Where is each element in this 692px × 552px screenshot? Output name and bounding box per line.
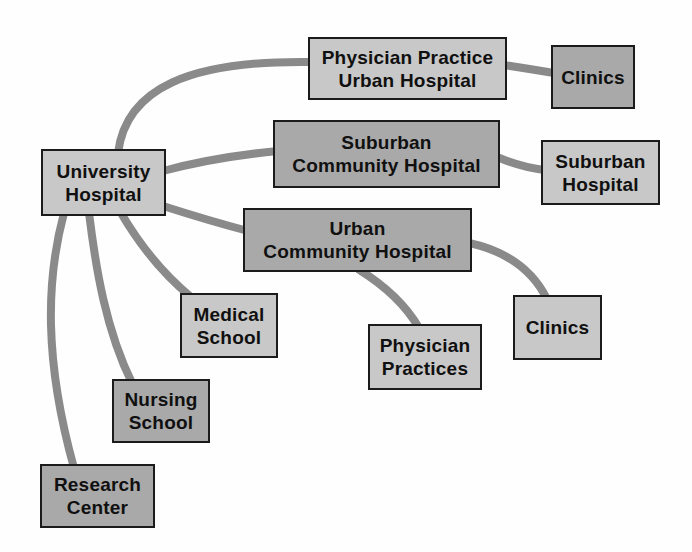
edge-uh-ms [121, 213, 191, 297]
node-label: Clinics [561, 66, 625, 89]
node-label: School [129, 411, 194, 434]
node-nursing-school: Nursing School [112, 379, 210, 443]
node-clinics-bottom: Clinics [513, 295, 602, 360]
node-label: Suburban [555, 150, 645, 173]
node-label: Nursing [124, 388, 197, 411]
node-label: School [197, 326, 262, 349]
node-label: Urban [330, 217, 386, 240]
edge-ppuh-ct [504, 65, 554, 73]
edge-uch-pp [358, 269, 419, 328]
edge-uh-ns [89, 213, 132, 383]
diagram-canvas: University Hospital Physician Practice U… [0, 0, 692, 552]
edge-uh-uch [163, 206, 248, 231]
node-clinics-top: Clinics [551, 45, 635, 109]
node-label: Suburban [341, 131, 431, 154]
node-label: Physician Practice [322, 46, 494, 69]
node-urban-community-hospital: Urban Community Hospital [243, 208, 472, 272]
edge-uh-rc [51, 213, 74, 468]
node-physician-practices: Physician Practices [368, 324, 482, 390]
node-label: Medical [193, 303, 264, 326]
node-label: Community Hospital [292, 154, 480, 177]
node-university-hospital: University Hospital [41, 149, 166, 216]
node-label: Center [67, 496, 128, 519]
node-label: Physician [380, 334, 471, 357]
node-label: Hospital [562, 173, 639, 196]
node-label: Hospital [65, 183, 142, 206]
node-label: University [57, 160, 151, 183]
node-physician-practice-urban-hospital: Physician Practice Urban Hospital [308, 37, 507, 100]
node-label: Community Hospital [263, 240, 451, 263]
node-label: Urban Hospital [339, 69, 477, 92]
edge-sch-sh [497, 157, 544, 170]
node-medical-school: Medical School [180, 293, 278, 358]
node-research-center: Research Center [40, 464, 155, 528]
node-label: Clinics [526, 316, 590, 339]
node-label: Research [54, 473, 141, 496]
node-label: Practices [382, 357, 468, 380]
node-suburban-hospital: Suburban Hospital [541, 140, 660, 205]
node-suburban-community-hospital: Suburban Community Hospital [273, 120, 500, 188]
edge-uch-cb [469, 243, 547, 299]
edge-uh-sch [163, 151, 278, 171]
